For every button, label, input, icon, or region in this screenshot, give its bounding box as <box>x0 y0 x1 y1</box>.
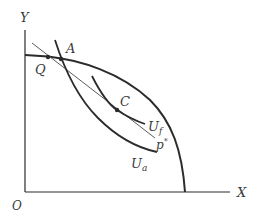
indifference-curve-ua <box>55 40 157 152</box>
point-q <box>46 55 50 59</box>
ua-label: Ua <box>131 156 147 173</box>
point-c-label: C <box>120 94 130 109</box>
origin-label: O <box>12 199 22 213</box>
ppf-diagram: Y O X A Q C Uf p* Ua <box>0 0 257 217</box>
uf-label: Uf <box>148 119 164 136</box>
point-c <box>115 108 119 112</box>
point-a <box>59 57 63 61</box>
point-q-label: Q <box>35 62 46 77</box>
point-a-label: A <box>65 41 75 56</box>
indifference-curve-uf <box>92 76 145 124</box>
price-line-label: p* <box>156 137 168 152</box>
price-line <box>32 43 155 138</box>
x-axis-label: X <box>236 185 247 200</box>
y-axis-label: Y <box>20 10 30 25</box>
